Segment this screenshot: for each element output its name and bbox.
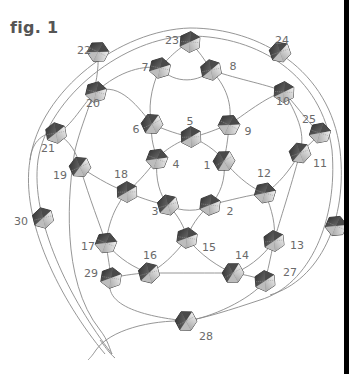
bead-number-label: 18 (114, 169, 128, 180)
bead-number-label: 3 (152, 206, 159, 217)
bead-icon (287, 140, 312, 166)
bead-icon (181, 126, 201, 148)
bead-number-label: 16 (143, 250, 157, 261)
bead-number-label: 6 (133, 124, 140, 135)
bead-icon (220, 259, 247, 287)
bead-icon (253, 180, 277, 206)
thread-path (110, 278, 186, 321)
bead-number-label: 12 (257, 168, 271, 179)
bead-icon (156, 192, 180, 217)
bead-number-label: 2 (227, 206, 234, 217)
bead-number-label: 29 (84, 268, 98, 279)
bead-number-label: 28 (199, 331, 213, 342)
bead-number-label: 17 (81, 241, 95, 252)
bead-pattern-diagram (0, 0, 349, 374)
bead-icon (200, 58, 223, 82)
thread-path (80, 167, 106, 243)
bead-number-label: 5 (187, 116, 194, 127)
bead-icon (173, 307, 200, 334)
bead-icon (137, 260, 161, 285)
thread-path (88, 321, 186, 360)
bead-number-label: 4 (173, 159, 180, 170)
bead-number-label: 13 (290, 240, 304, 251)
bead-number-label: 24 (275, 35, 289, 46)
bead-icon (216, 111, 242, 138)
bead-number-label: 25 (302, 114, 316, 125)
bead-number-label: 19 (53, 170, 67, 181)
figure-canvas: fig. 1 123456789101112131415161718192021… (0, 0, 349, 374)
bead-icon (199, 193, 220, 216)
bead-icon (31, 206, 55, 231)
bead-number-label: 10 (276, 96, 290, 107)
bead-number-label: 30 (14, 216, 28, 227)
bead-number-label: 22 (77, 45, 91, 56)
bead-icon (263, 230, 284, 253)
bead-number-label: 11 (313, 158, 327, 169)
bead-icon (100, 266, 122, 290)
bead-number-label: 7 (142, 62, 149, 73)
bead-icon (139, 111, 165, 138)
thread-path (211, 70, 284, 92)
bead-number-label: 21 (41, 143, 55, 154)
bead-number-label: 14 (235, 250, 249, 261)
bead-number-label: 8 (230, 61, 237, 72)
bead-number-label: 23 (165, 35, 179, 46)
edge-bar (344, 0, 349, 374)
thread-path (274, 153, 300, 241)
figure-title: fig. 1 (10, 18, 58, 37)
bead-number-label: 27 (283, 267, 297, 278)
bead-number-label: 1 (204, 160, 211, 171)
thread-path (186, 281, 265, 321)
bead-number-label: 9 (245, 126, 252, 137)
bead-number-label: 15 (202, 242, 216, 253)
bead-icon (117, 181, 136, 202)
thread-paths (28, 28, 341, 360)
thread-path (28, 28, 341, 354)
bead-icon (144, 146, 169, 172)
bead-number-label: 20 (86, 98, 100, 109)
